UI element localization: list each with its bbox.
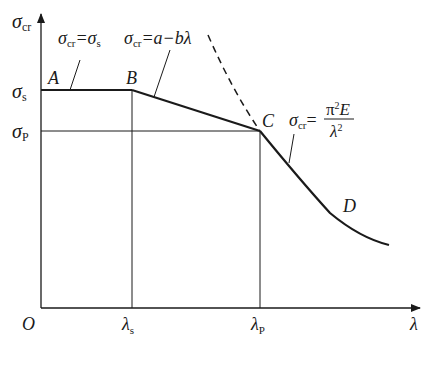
critical-stress-diagram: σcr σs σP O λs λP λ A B C D σcr=σs σcr=a…	[0, 0, 430, 365]
point-c-label: C	[262, 111, 275, 131]
euler-curve-cd	[260, 131, 389, 245]
y-tick-sigma-p: σP	[12, 120, 29, 144]
diagram-svg: σcr σs σP O λs λP λ A B C D σcr=σs σcr=a…	[0, 0, 430, 365]
leader-plateau	[70, 60, 80, 90]
x-tick-lambda-p: λP	[250, 314, 265, 336]
formula-euler-denominator: λ2	[329, 122, 342, 141]
formula-linear: σcr=a−bλ	[124, 28, 192, 49]
origin-label: O	[22, 314, 35, 334]
leader-euler	[289, 134, 294, 163]
x-tick-lambda-s: λs	[121, 314, 134, 336]
point-d-label: D	[342, 196, 356, 216]
point-b-label: B	[126, 68, 137, 88]
formula-plateau: σcr=σs	[58, 28, 101, 49]
formula-euler-lhs: σcr=	[289, 110, 317, 131]
x-axis-label: λ	[409, 314, 418, 334]
y-tick-sigma-s: σs	[12, 80, 27, 104]
leader-linear	[154, 50, 170, 97]
y-axis-label: σcr	[12, 10, 31, 34]
formula-euler-numerator: π2E	[326, 100, 351, 119]
linear-segment-bc	[132, 90, 260, 131]
point-a-label: A	[47, 68, 60, 88]
